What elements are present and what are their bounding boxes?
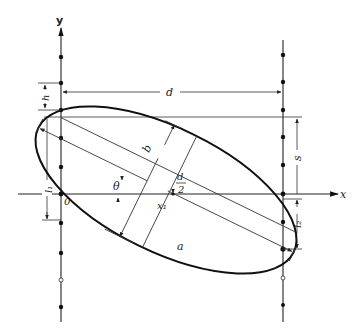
l1-label: l₁ — [43, 186, 54, 193]
d-half-numerator: d — [177, 171, 183, 182]
d-half-point — [171, 192, 174, 195]
x1-label: x₁ — [157, 200, 167, 211]
ellipse-diagram: y x 0 d h — [0, 0, 361, 332]
h-label: h — [40, 95, 51, 101]
b-dimension-top — [165, 125, 175, 145]
y-axis-label: y — [56, 14, 63, 27]
b-bottom-tick — [105, 229, 134, 243]
diagram-canvas: y x 0 d h — [0, 0, 361, 332]
s-label: s — [291, 155, 304, 161]
a-label: a — [177, 240, 184, 253]
x-axis-label: x — [340, 188, 347, 201]
theta-label: θ — [113, 180, 120, 193]
d-half-denominator: 2 — [177, 184, 184, 195]
a-dimension-left — [40, 129, 147, 181]
ellipse-outline — [11, 72, 321, 308]
ellipse-construction-lines — [11, 72, 321, 308]
a-left-tick — [36, 119, 43, 133]
d-label: d — [166, 86, 173, 99]
